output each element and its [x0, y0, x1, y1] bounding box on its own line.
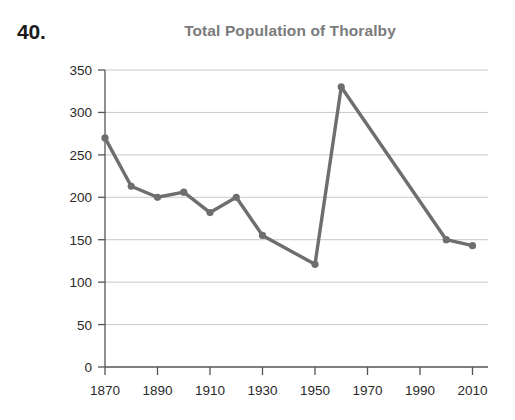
data-point	[443, 236, 450, 243]
data-point	[469, 242, 476, 249]
y-tick-label: 200	[69, 190, 92, 205]
data-point	[206, 209, 213, 216]
data-point	[233, 194, 240, 201]
y-tick-label: 0	[84, 360, 92, 375]
data-point	[128, 183, 135, 190]
data-point	[259, 232, 266, 239]
y-tick-marks-group	[98, 70, 105, 367]
x-tick-label: 2010	[457, 383, 487, 398]
data-point	[311, 261, 318, 268]
x-tick-label: 1970	[352, 383, 382, 398]
chart-figure: 40. Total Population of Thoralby 0501001…	[0, 0, 515, 420]
x-tick-label: 1950	[300, 383, 330, 398]
y-tick-label: 350	[69, 63, 92, 78]
x-tick-label: 1930	[247, 383, 277, 398]
data-point	[180, 189, 187, 196]
x-tick-label: 1990	[405, 383, 435, 398]
x-tick-marks-group	[105, 367, 473, 375]
x-tick-label: 1890	[142, 383, 172, 398]
x-tick-label: 1910	[195, 383, 225, 398]
line-chart-plot: 050100150200250300350 187018901910193019…	[0, 0, 515, 420]
y-tick-label: 150	[69, 233, 92, 248]
y-tick-labels-group: 050100150200250300350	[69, 63, 92, 375]
y-tick-label: 50	[77, 318, 92, 333]
y-tick-label: 300	[69, 105, 92, 120]
data-point	[101, 134, 108, 141]
x-tick-label: 1870	[90, 383, 120, 398]
data-point	[154, 194, 161, 201]
data-point	[338, 83, 345, 90]
y-tick-label: 100	[69, 275, 92, 290]
population-markers-group	[101, 83, 476, 268]
x-tick-labels-group: 18701890191019301950197019902010	[90, 383, 488, 398]
population-line	[105, 87, 473, 264]
y-tick-label: 250	[69, 148, 92, 163]
